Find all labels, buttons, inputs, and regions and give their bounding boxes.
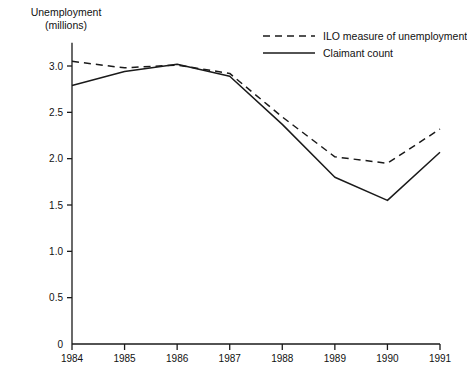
x-tick-label: 1986 bbox=[166, 353, 189, 364]
chart-legend: ILO measure of unemployment Claimant cou… bbox=[262, 27, 467, 61]
y-axis-title-line2: (millions) bbox=[10, 19, 122, 32]
legend-label-ilo: ILO measure of unemployment bbox=[323, 30, 467, 42]
legend-label-claimant: Claimant count bbox=[323, 47, 393, 59]
y-axis-title: Unemployment (millions) bbox=[10, 6, 122, 31]
legend-item-claimant: Claimant count bbox=[262, 44, 467, 61]
x-tick-label: 1984 bbox=[61, 353, 84, 364]
x-tick-label: 1990 bbox=[376, 353, 399, 364]
chart-series bbox=[72, 61, 440, 200]
y-tick-label: 2.0 bbox=[49, 153, 63, 164]
series-line-claimant bbox=[72, 64, 440, 200]
legend-item-ilo: ILO measure of unemployment bbox=[262, 27, 467, 44]
y-tick-label: 1.0 bbox=[49, 246, 63, 257]
series-line-ilo bbox=[72, 61, 440, 163]
x-tick-label: 1985 bbox=[113, 353, 136, 364]
chart-axes bbox=[67, 43, 440, 350]
y-tick-label: 0 bbox=[57, 339, 63, 350]
legend-solid-line-icon bbox=[262, 48, 316, 58]
y-axis-title-line1: Unemployment bbox=[31, 6, 102, 18]
legend-dashed-line-icon bbox=[262, 31, 316, 41]
x-tick-label: 1991 bbox=[429, 353, 452, 364]
x-tick-label: 1987 bbox=[219, 353, 242, 364]
x-tick-label: 1989 bbox=[324, 353, 347, 364]
y-tick-label: 3.0 bbox=[49, 61, 63, 72]
y-tick-label: 0.5 bbox=[49, 292, 63, 303]
y-tick-label: 1.5 bbox=[49, 200, 63, 211]
chart-tick-labels: 00.51.01.52.02.53.0198419851986198719881… bbox=[49, 61, 451, 364]
x-tick-label: 1988 bbox=[271, 353, 294, 364]
y-tick-label: 2.5 bbox=[49, 107, 63, 118]
